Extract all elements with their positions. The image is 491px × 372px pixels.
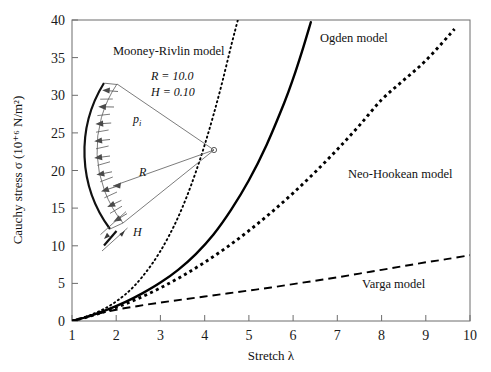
neo-hookean-label: Neo-Hookean model: [348, 167, 453, 181]
chart-figure: 0 5 10 15 20 25 30 35 40 1 2 3: [0, 0, 491, 372]
thickness-label: H: [132, 225, 143, 239]
varga-label: Varga model: [362, 277, 426, 291]
param-R-text: R = 10.0: [150, 69, 193, 83]
shell-inner-arc: [97, 84, 123, 223]
thickness-arrow-head-upper: [119, 231, 125, 237]
chart-svg: 0 5 10 15 20 25 30 35 40 1 2 3: [0, 0, 491, 372]
x-tick-label: 1: [69, 328, 76, 343]
radius-arrow-head: [113, 182, 121, 188]
y-tick-label: 35: [51, 51, 65, 66]
y-tick-label: 20: [51, 164, 65, 179]
y-tick-label: 15: [51, 201, 65, 216]
y-axis-tick-labels: 0 5 10 15 20 25 30 35 40: [51, 13, 65, 329]
y-tick-label: 10: [51, 239, 65, 254]
y-tick-label: 25: [51, 126, 65, 141]
mooney-rivlin-label: Mooney-Rivlin model: [113, 44, 225, 58]
param-H-text: H = 0.10: [150, 85, 195, 99]
x-tick-label: 10: [463, 328, 477, 343]
x-axis-tick-labels: 1 2 3 4 5 6 7 8 9 10: [69, 328, 478, 343]
y-tick-label: 0: [58, 314, 65, 329]
y-tick-label: 5: [58, 276, 65, 291]
x-tick-label: 2: [113, 328, 120, 343]
y-tick-label: 40: [51, 13, 65, 28]
series-ogden: [72, 22, 311, 321]
wedge-edge-bottom: [123, 150, 214, 223]
radius-dimension-line: [113, 150, 214, 186]
pressure-arrows: [94, 87, 127, 221]
x-tick-label: 3: [157, 328, 164, 343]
x-axis-ticks: [72, 315, 470, 321]
ogden-label: Ogden model: [320, 31, 388, 45]
p-subscript: i: [139, 118, 142, 128]
p-symbol: p: [132, 112, 139, 126]
pressurized-shell-diagram: pi R H R = 10.0 H = 0.10: [84, 69, 216, 251]
x-axis-title: Stretch λ: [248, 348, 295, 363]
thickness-marker: [101, 212, 128, 251]
internal-pressure-label: pi: [132, 112, 142, 128]
x-tick-label: 6: [290, 328, 297, 343]
y-tick-label: 30: [51, 88, 65, 103]
series-mooney-rivlin: [72, 20, 238, 321]
y-axis-title: Cauchy stress σ (10⁺⁶ N/m²): [10, 96, 25, 245]
x-tick-label: 9: [422, 328, 429, 343]
x-tick-label: 8: [378, 328, 385, 343]
x-tick-label: 7: [334, 328, 341, 343]
y-axis-ticks: [72, 20, 78, 321]
x-tick-label: 5: [245, 328, 252, 343]
radius-label: R: [138, 165, 147, 179]
x-tick-label: 4: [201, 328, 208, 343]
